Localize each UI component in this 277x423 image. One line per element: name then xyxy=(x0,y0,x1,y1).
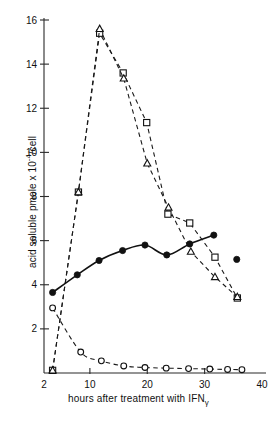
y-axis-label-tail: /cell xyxy=(27,136,38,154)
x-axis-label-subscript: γ xyxy=(205,398,209,407)
x-tick-label: 30 xyxy=(199,379,211,390)
data-point-filled-circle xyxy=(119,247,125,253)
data-point-open-square xyxy=(165,211,171,217)
data-point-filled-circle xyxy=(50,289,56,295)
data-point-filled-circle xyxy=(234,256,240,262)
data-point-open-circle xyxy=(186,366,192,372)
x-tick-label: 40 xyxy=(256,379,268,390)
data-point-filled-circle xyxy=(96,257,102,263)
data-point-filled-circle xyxy=(187,241,193,247)
data-point-filled-circle xyxy=(142,242,148,248)
data-point-open-triangle xyxy=(96,25,103,31)
figure-container: 246810121416210203040 hours after treatm… xyxy=(0,0,277,423)
chart-canvas: 246810121416210203040 xyxy=(0,0,277,423)
y-tick-label: 14 xyxy=(26,59,38,70)
series-open-square-series xyxy=(50,30,241,373)
y-axis-label-superscript: -4 xyxy=(24,154,33,161)
x-axis-label-text: hours after treatment with IFN xyxy=(68,393,205,404)
data-point-open-circle xyxy=(163,365,169,371)
data-point-open-square xyxy=(187,220,193,226)
x-tick-label: 10 xyxy=(84,379,96,390)
y-tick-label: 16 xyxy=(26,15,38,26)
data-point-open-circle xyxy=(50,305,56,311)
x-tick-label: 2 xyxy=(41,379,47,390)
data-point-open-square xyxy=(144,119,150,125)
y-tick-label: 2 xyxy=(31,323,37,334)
data-point-filled-circle xyxy=(211,232,217,238)
series-open-triangle-series xyxy=(49,25,241,373)
data-point-open-circle xyxy=(78,349,84,355)
series-line xyxy=(53,308,242,370)
series-line xyxy=(53,33,238,370)
data-point-open-triangle xyxy=(144,160,151,166)
x-axis-label: hours after treatment with IFNγ xyxy=(0,393,277,407)
tick-labels: 246810121416210203040 xyxy=(26,15,268,390)
data-point-open-circle xyxy=(121,363,127,369)
data-point-filled-circle xyxy=(74,272,80,278)
data-point-filled-circle xyxy=(164,252,170,258)
series-line xyxy=(53,29,238,371)
series-open-circle-series xyxy=(50,305,245,373)
data-point-open-circle xyxy=(207,366,213,372)
data-series xyxy=(49,25,245,373)
series-filled-circle-series xyxy=(50,232,240,296)
data-point-open-circle xyxy=(225,367,231,373)
y-axis-label-text: acid soluble pmole x 10 xyxy=(27,161,38,268)
data-point-open-circle xyxy=(239,367,245,373)
x-tick-label: 20 xyxy=(142,379,154,390)
data-point-open-square xyxy=(212,254,218,260)
y-axis-label: acid soluble pmole x 10-4/cell xyxy=(24,87,38,317)
data-point-open-triangle xyxy=(187,248,194,254)
data-point-open-circle xyxy=(98,358,104,364)
data-point-open-circle xyxy=(142,365,148,371)
